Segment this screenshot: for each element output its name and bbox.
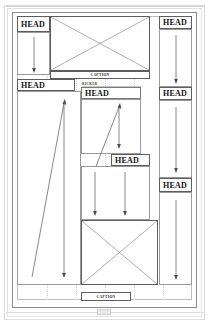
photo-bottom[interactable] [81,220,158,285]
arrow-top-right-down [159,29,193,88]
headline-right-second-label: HEAD [163,89,187,98]
headline-top-right[interactable]: HEAD [159,16,192,29]
photo-top[interactable] [50,16,150,71]
headline-top-left[interactable]: HEAD [17,16,50,32]
headline-right-second[interactable]: HEAD [159,87,192,100]
headline-top-right-label: HEAD [163,18,187,27]
arrow-center-down [81,99,142,159]
headline-center-label: HEAD [85,89,109,98]
footer-rule-lower [6,319,204,320]
caption-bottom[interactable]: CAPTION [81,292,131,301]
headline-center-lower[interactable]: HEAD [111,154,150,166]
headline-right-third[interactable]: HEAD [159,178,192,192]
caption-top[interactable]: CAPTION [50,71,150,79]
caption-bottom-label: CAPTION [96,295,115,299]
folio-page-number [97,309,111,315]
headline-center-lower-label: HEAD [115,156,139,165]
arrow-right-third-down [159,192,193,286]
layout-thumbnail-canvas: HEAD CAPTION HEAD HEAD KICK [0,0,209,326]
arrow-top-left-down [17,32,51,76]
headline-mid-left-label: HEAD [21,81,45,90]
caption-top-label: CAPTION [90,73,109,77]
arrow-right-second-down [159,100,193,179]
kicker-center-label: KICKER [82,82,98,86]
headline-right-third-label: HEAD [163,181,187,190]
top-guide-rule [6,6,204,7]
headline-mid-left[interactable]: HEAD [17,79,75,91]
arrow-center-right-down [81,166,151,221]
headline-top-left-label: HEAD [21,20,45,29]
arrow-left-col-down [17,91,82,286]
headline-center[interactable]: HEAD [81,87,141,99]
